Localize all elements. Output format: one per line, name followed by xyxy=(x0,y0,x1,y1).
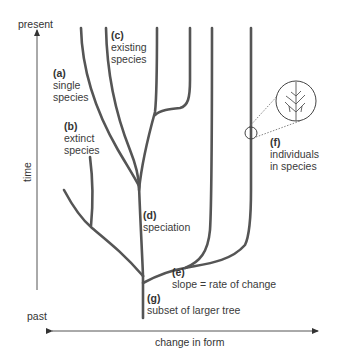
label-g-subset: (g) subset of larger tree xyxy=(147,292,240,316)
side-branch-190 xyxy=(155,28,190,115)
label-d-speciation: (d) speciation xyxy=(143,209,190,233)
magnifier-icon xyxy=(245,81,316,139)
label-e-slope: (e) slope = rate of change xyxy=(172,266,276,290)
extinct-species-branch xyxy=(90,157,92,226)
label-f-individuals: (f) individuals in species xyxy=(270,136,319,172)
axis-label-change-in-form: change in form xyxy=(155,336,224,348)
label-c-existing-species: (c) existing species xyxy=(111,29,147,65)
axis-label-present: present xyxy=(18,18,53,30)
axis-label-time: time xyxy=(21,162,33,182)
left-lower-branch xyxy=(64,190,143,276)
axis-label-past: past xyxy=(27,310,47,322)
right-lower-branch xyxy=(143,28,251,283)
label-b-extinct-species: (b) extinct species xyxy=(64,120,100,156)
label-a-single-species: (a) single species xyxy=(53,67,89,103)
